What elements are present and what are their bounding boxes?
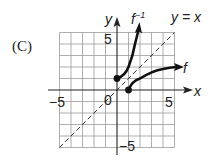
identity-label: y = x — [170, 9, 202, 25]
y-tick-pos5: 5 — [104, 31, 112, 47]
y-tick-neg5: −5 — [119, 138, 135, 154]
x-tick-pos5: 5 — [165, 94, 173, 110]
f-start-dot — [125, 87, 132, 94]
y-axis-label: y — [104, 11, 113, 27]
finv-label: f−1 — [131, 10, 145, 27]
f-label: f — [183, 60, 189, 76]
origin-label: 0 — [104, 92, 112, 108]
x-tick-neg5: −5 — [49, 94, 65, 110]
finv-start-dot — [114, 75, 121, 82]
graph: −5 5 5 −5 0 x y f f−1 y = x — [0, 0, 216, 161]
x-axis-label: x — [193, 83, 202, 99]
